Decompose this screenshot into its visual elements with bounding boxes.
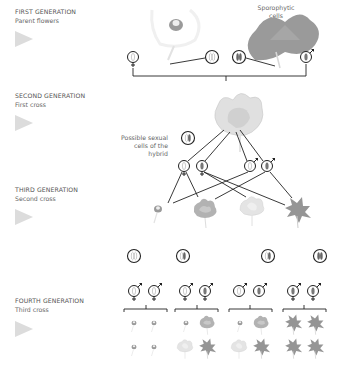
hybrid-female-cell-empty-icon	[179, 161, 190, 177]
fourth-gen-group-3	[229, 283, 272, 359]
parent-female-cell-icon	[128, 52, 139, 68]
fourth-gen-sporophytic-cell-2	[177, 250, 190, 263]
fourth-gen-group-4	[283, 283, 326, 359]
fourth-gen-group-1	[124, 283, 167, 356]
inheritance-diagram	[0, 0, 337, 370]
fourth-gen-sporophytic-cell-4	[314, 250, 327, 263]
parent-white-flower	[152, 10, 199, 60]
first-generation-connectors	[133, 58, 306, 81]
sporophytic-cell-empty-icon	[206, 51, 219, 64]
third-gen-pink-flower	[194, 199, 217, 228]
third-gen-dark-flower	[285, 197, 311, 228]
sporophytic-cell-dark-icon	[233, 51, 246, 64]
hybrid-female-cell-dark-icon	[197, 161, 208, 177]
third-gen-white-bud	[154, 206, 162, 224]
third-gen-white-flower	[240, 197, 264, 226]
fourth-gen-group-2	[175, 283, 218, 359]
hybrid-flower	[215, 93, 263, 152]
fourth-gen-sporophytic-cell-3	[262, 250, 275, 263]
hybrid-male-cell-dark-icon	[262, 158, 276, 172]
fourth-gen-sporophytic-cell-1	[128, 250, 141, 263]
hybrid-sporophytic-cell-icon	[182, 132, 195, 145]
